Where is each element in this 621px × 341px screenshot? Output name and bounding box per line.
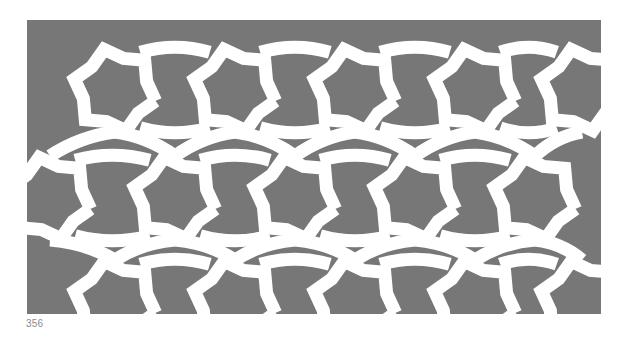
interlace-band bbox=[140, 47, 210, 52]
interlace-band bbox=[500, 128, 557, 133]
interlace-band bbox=[75, 155, 150, 160]
interlace-band bbox=[140, 259, 210, 264]
interlace-band bbox=[380, 128, 450, 133]
interlace-pattern-graphic bbox=[27, 20, 601, 314]
interlace-band bbox=[380, 259, 450, 264]
interlace-band bbox=[260, 128, 330, 133]
interlace-band bbox=[320, 236, 390, 241]
interlace-band bbox=[260, 47, 330, 52]
interlace-band bbox=[260, 259, 330, 264]
interlace-band bbox=[75, 236, 150, 241]
interlace-band bbox=[140, 128, 210, 133]
interlace-band bbox=[380, 47, 450, 52]
interlace-band bbox=[500, 47, 557, 52]
interlace-band bbox=[200, 236, 270, 241]
interlace-band bbox=[440, 236, 510, 241]
interlace-band bbox=[440, 155, 510, 160]
interlace-band bbox=[500, 259, 557, 264]
interlace-band bbox=[320, 155, 390, 160]
page-number: 356 bbox=[26, 318, 43, 329]
interlace-band bbox=[200, 155, 270, 160]
interlace-pattern-figure bbox=[27, 20, 601, 314]
